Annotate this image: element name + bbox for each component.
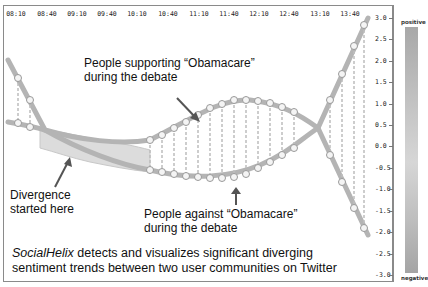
helix-node xyxy=(207,105,214,112)
helix-node xyxy=(15,120,22,127)
supporters-annotation-line1: People supporting “Obamacare” xyxy=(84,56,255,70)
against-annotation-line1: People against “Obamacare” xyxy=(144,207,297,221)
sentiment-colorbar xyxy=(405,27,418,273)
colorbar-top-label: positive xyxy=(401,19,426,25)
helix-node xyxy=(231,97,238,104)
helix-node xyxy=(279,152,286,159)
helix-node xyxy=(171,171,178,178)
helix-node xyxy=(159,132,166,139)
helix-node xyxy=(279,104,286,111)
divergence-annotation-line1: Divergence xyxy=(10,188,74,202)
against-annotation-line2: during the debate xyxy=(144,221,297,235)
helix-node xyxy=(195,174,202,181)
caption-line2: sentiment trends between two user commun… xyxy=(12,261,337,276)
helix-node xyxy=(15,75,22,82)
helix-node xyxy=(183,173,190,180)
helix-node xyxy=(339,71,346,78)
helix-node xyxy=(291,145,298,152)
helix-node xyxy=(255,165,262,172)
helix-node xyxy=(291,109,298,116)
helix-node xyxy=(267,159,274,166)
helix-node xyxy=(207,175,214,182)
helix-node xyxy=(243,171,250,178)
against-arrow-head xyxy=(231,187,241,194)
helix-node xyxy=(243,97,250,104)
brand-name: SocialHelix xyxy=(12,246,74,260)
divergence-annotation: Divergence started here xyxy=(10,188,74,216)
helix-node xyxy=(231,174,238,181)
helix-node xyxy=(159,169,166,176)
divergence-arrow xyxy=(55,162,68,187)
supporters-annotation-line2: during the debate xyxy=(84,70,255,84)
helix-node xyxy=(171,125,178,132)
caption-line1-text: detects and visualizes significant diver… xyxy=(74,246,313,260)
helix-node xyxy=(339,179,346,186)
colorbar-bottom-label: negative xyxy=(401,275,428,281)
supporters-annotation: People supporting “Obamacare” during the… xyxy=(84,56,255,84)
helix-node xyxy=(327,152,334,159)
helix-node xyxy=(361,225,368,232)
helix-node xyxy=(267,100,274,107)
helix-node xyxy=(361,22,368,29)
helix-node xyxy=(27,124,34,131)
helix-node xyxy=(27,97,34,104)
helix-node xyxy=(351,43,358,50)
helix-node xyxy=(183,119,190,126)
helix-node xyxy=(147,167,154,174)
helix-node xyxy=(255,98,262,105)
helix-node xyxy=(219,101,226,108)
divergence-annotation-line2: started here xyxy=(10,202,74,216)
helix-node xyxy=(147,137,154,144)
helix-node xyxy=(351,205,358,212)
against-annotation: People against “Obamacare” during the de… xyxy=(144,207,297,235)
helix-node xyxy=(219,175,226,182)
caption-line1: SocialHelix detects and visualizes signi… xyxy=(12,246,337,261)
helix-node xyxy=(327,97,334,104)
caption: SocialHelix detects and visualizes signi… xyxy=(12,246,337,276)
